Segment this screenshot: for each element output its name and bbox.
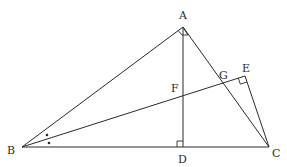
geometry-diagram: A B C D E F G bbox=[0, 0, 287, 167]
segment-ac bbox=[183, 27, 269, 147]
angle-mark-dot-lower bbox=[48, 142, 51, 145]
right-angle-mark-d bbox=[177, 141, 183, 147]
label-c: C bbox=[272, 147, 280, 160]
segment-ab bbox=[22, 27, 183, 147]
angle-mark-dot-upper bbox=[46, 134, 49, 137]
segment-be bbox=[22, 76, 245, 147]
label-d: D bbox=[178, 153, 187, 166]
label-b: B bbox=[7, 144, 15, 157]
label-f: F bbox=[171, 82, 179, 95]
segment-ce bbox=[245, 76, 269, 147]
label-g: G bbox=[219, 69, 228, 82]
label-e: E bbox=[242, 62, 250, 75]
label-a: A bbox=[178, 9, 188, 22]
